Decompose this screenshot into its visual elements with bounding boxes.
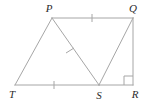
tick-marks-group xyxy=(54,14,92,89)
vertex-label-r: R xyxy=(131,88,139,100)
vertex-label-q: Q xyxy=(129,2,137,14)
segment-TP xyxy=(15,18,52,85)
segments-group xyxy=(15,18,133,85)
tick-mark-ps-icon xyxy=(66,48,74,53)
geometry-figure: PQTSR xyxy=(0,0,152,104)
vertex-label-t: T xyxy=(9,88,16,100)
right-angle-marker-r-icon xyxy=(124,76,133,85)
vertex-label-p: P xyxy=(45,2,53,14)
vertex-label-s: S xyxy=(96,89,102,101)
segment-PS xyxy=(52,18,99,85)
segment-SQ xyxy=(99,18,133,85)
figure-canvas: PQTSR xyxy=(0,0,152,104)
vertex-labels-group: PQTSR xyxy=(9,2,139,101)
